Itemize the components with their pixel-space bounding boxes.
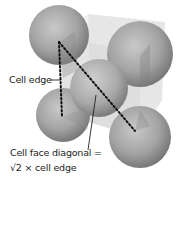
face-diagonal-label-line1: Cell face diagonal = bbox=[10, 147, 102, 158]
face-diagonal-label-line2: √2 × cell edge bbox=[10, 162, 76, 173]
cell-edge-label: Cell edge bbox=[9, 74, 52, 85]
